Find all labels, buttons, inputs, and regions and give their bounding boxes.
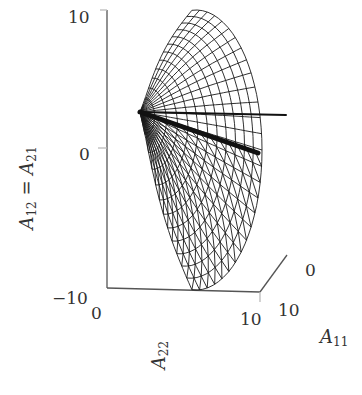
ray-diagonal (140, 112, 258, 153)
y-axis-line (107, 288, 260, 292)
z-label-sub2: 21 (25, 146, 39, 161)
mesh-radial-line (140, 10, 200, 112)
y-label-sub: 22 (157, 341, 171, 356)
y-tick-label-0: 0 (91, 305, 102, 322)
wireframe-plot (0, 0, 362, 395)
z-tick-label-0: 0 (79, 146, 90, 163)
x-tick-label-0: 0 (305, 262, 316, 279)
y-axis-label: A22 (150, 335, 170, 375)
x-tick-label-10: 10 (278, 302, 300, 319)
x-axis-line (260, 255, 287, 292)
z-label-eq: = A (16, 162, 37, 202)
y-label-a: A (148, 356, 169, 369)
z-tick-label-10: 10 (68, 9, 90, 26)
z-label-sub1: 12 (25, 201, 39, 216)
y-tick-label-10: 10 (240, 311, 262, 328)
x-axis-label: A11 (320, 328, 348, 348)
z-axis-label: A12 = A21 (18, 138, 38, 238)
x-label-a: A (320, 326, 333, 347)
x-label-sub: 11 (333, 335, 348, 349)
z-label-a: A (16, 217, 37, 230)
z-tick-label-minus10: −10 (52, 290, 88, 307)
